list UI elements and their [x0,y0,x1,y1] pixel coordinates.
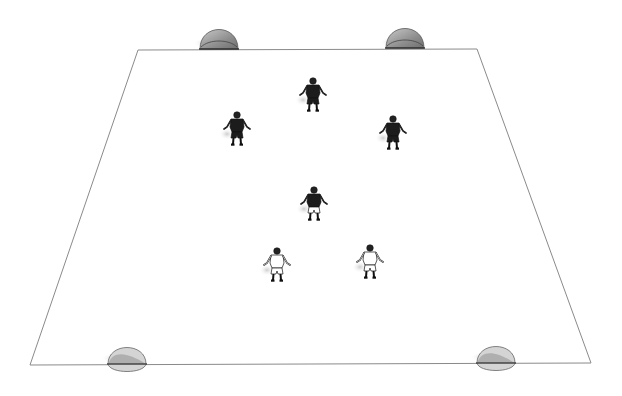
popup-goal-top-right [379,29,425,49]
popup-goal-top-left [193,30,239,50]
drill-diagram [0,0,622,396]
